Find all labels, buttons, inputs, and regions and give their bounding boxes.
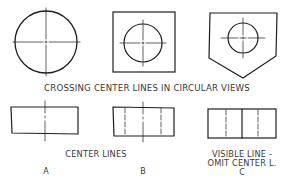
crossing-center-lines — [221, 18, 265, 58]
top-row-caption: CROSSING CENTER LINES IN CIRCULAR VIEWS — [44, 83, 250, 93]
technical-drawing-figure: CROSSING CENTER LINES IN CIRCULAR VIEWS … — [0, 0, 294, 185]
view-a-label: CENTER LINES — [65, 149, 126, 159]
square-outline — [113, 12, 175, 72]
rectangle-outline — [113, 107, 174, 136]
view-c-letter: C — [239, 168, 245, 177]
view-a-rectangle — [11, 101, 78, 141]
circle-view — [13, 8, 80, 76]
square-with-circle-view — [113, 12, 175, 72]
crossing-center-lines — [13, 8, 80, 76]
view-c-rectangle — [208, 109, 276, 138]
view-c-label-line-2: OMIT CENTER L. — [208, 158, 277, 168]
view-a-letter: A — [43, 167, 49, 176]
view-b-letter: B — [140, 167, 146, 176]
crossing-center-lines — [120, 20, 166, 66]
pentagon-with-circle-view — [209, 13, 277, 78]
rectangle-outline — [11, 107, 78, 134]
view-b-rectangle — [113, 102, 174, 142]
drawing-canvas: CROSSING CENTER LINES IN CIRCULAR VIEWS … — [0, 0, 294, 185]
